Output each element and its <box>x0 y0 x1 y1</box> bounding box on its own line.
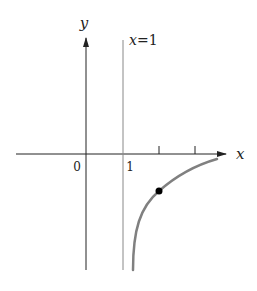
graph-canvas: y x 0 1 x=1 <box>0 0 257 291</box>
asymptote-label: x=1 <box>129 32 158 48</box>
origin-label: 0 <box>73 160 81 174</box>
y-axis-label: y <box>79 14 89 32</box>
tick-label-1: 1 <box>126 160 134 174</box>
marked-point <box>156 188 163 195</box>
x-axis-label: x <box>236 145 245 163</box>
asymptote-label-eq: =1 <box>137 32 158 48</box>
function-curve <box>133 159 217 270</box>
asymptote-label-var: x <box>129 32 137 48</box>
